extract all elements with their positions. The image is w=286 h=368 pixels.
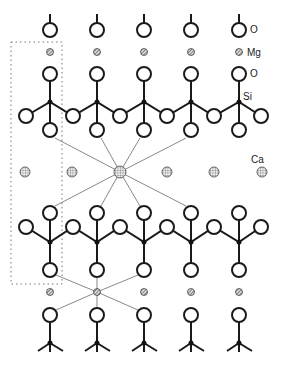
crystal-structure-diagram: O Mg O Si Ca (0, 0, 286, 368)
lower-magnesium-row (47, 289, 243, 296)
top-oxygen-row (43, 14, 246, 37)
label-calcium: Ca (251, 154, 264, 165)
label-oxygen-top: O (250, 24, 258, 35)
upper-silicon-atoms (48, 100, 242, 105)
label-silicon: Si (243, 91, 252, 102)
label-magnesium: Mg (247, 47, 261, 58)
bottom-silicon-atoms (48, 341, 242, 346)
calcium-row (20, 166, 267, 178)
bottom-tetrahedra (38, 308, 252, 352)
upper-magnesium-row (47, 49, 243, 56)
label-oxygen-mid: O (250, 68, 258, 79)
lower-silicon-atoms (48, 240, 242, 245)
